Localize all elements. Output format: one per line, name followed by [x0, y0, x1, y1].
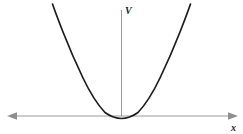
parabola-figure: V x: [0, 0, 243, 134]
x-axis-right-arrow-icon: [228, 112, 238, 120]
x-axis-left-arrow-icon: [7, 112, 17, 120]
plot-canvas: V x: [0, 0, 243, 134]
y-axis-label: V: [125, 5, 133, 16]
x-axis-label: x: [230, 122, 236, 133]
